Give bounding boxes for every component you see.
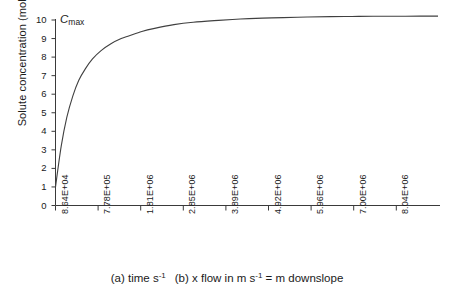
solute-concentration-curve <box>56 16 439 187</box>
y-tick-label: 0 <box>27 201 47 211</box>
x-tick-label: 3.89E+06 <box>230 174 240 214</box>
cmax-annotation: Cmax <box>60 13 84 27</box>
axes <box>56 19 441 206</box>
y-tick-label: 7 <box>27 71 47 81</box>
chart-figure: Solute concentration (mol/l) Cmax 012345… <box>0 0 454 298</box>
y-tick-label: 9 <box>27 34 47 44</box>
cmax-subscript: max <box>68 17 84 27</box>
y-tick-label: 5 <box>27 108 47 118</box>
caption-part-a-exponent: -1 <box>159 271 166 280</box>
x-tick-label: 2.85E+06 <box>187 174 197 214</box>
x-tick-label: 1.81E+06 <box>145 174 155 214</box>
caption-part-b: (b) x flow in m s <box>175 272 256 284</box>
y-tick-label: 10 <box>27 15 47 25</box>
x-tick-label: 7.78E+05 <box>102 174 112 214</box>
caption-part-a: (a) time s <box>111 272 159 284</box>
y-tick-label: 1 <box>27 182 47 192</box>
x-tick-label: 8.64E+04 <box>60 174 70 214</box>
x-tick-label: 4.92E+06 <box>273 174 283 214</box>
plot-canvas <box>0 0 454 298</box>
y-tick-label: 3 <box>27 145 47 155</box>
y-tick-label: 4 <box>27 126 47 136</box>
y-tick-label: 6 <box>27 89 47 99</box>
x-tick-label: 8.04E+06 <box>400 174 410 214</box>
y-tick-marks <box>52 20 56 206</box>
x-axis-caption: (a) time s-1(b) x flow in m s-1 = m down… <box>0 271 454 284</box>
y-tick-label: 2 <box>27 163 47 173</box>
x-tick-label: 5.96E+06 <box>315 174 325 214</box>
caption-part-b-tail: = m downslope <box>262 272 343 284</box>
x-tick-label: 7.00E+06 <box>358 174 368 214</box>
y-tick-label: 8 <box>27 52 47 62</box>
